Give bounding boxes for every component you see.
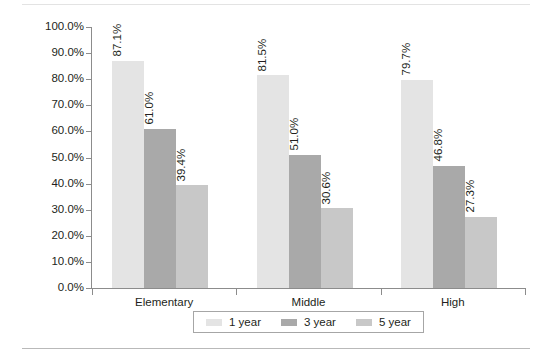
legend-swatch-icon: [356, 319, 372, 326]
bar-elementary-5-year: 39.4%: [176, 185, 208, 288]
plot-area: 87.1%61.0%39.4%81.5%51.0%30.6%79.7%46.8%…: [92, 27, 525, 288]
y-axis-tick-label: 40.0%: [51, 178, 84, 190]
bar-high-5-year: 27.3%: [465, 217, 497, 288]
y-axis-tick-label: 0.0%: [58, 282, 84, 294]
y-axis-tick-label: 10.0%: [51, 256, 84, 268]
bar-value-label: 51.0%: [288, 118, 300, 151]
x-axis-label-elementary: Elementary: [135, 296, 193, 308]
x-axis-line: [92, 288, 526, 289]
legend-swatch-icon: [206, 319, 222, 326]
x-axis-label-high: High: [441, 296, 465, 308]
top-divider-rule: [22, 4, 530, 5]
legend-item-5-year[interactable]: 5 year: [356, 316, 411, 328]
x-axis-tick: [525, 289, 526, 295]
legend-label: 3 year: [304, 316, 336, 328]
bar-high-1-year: 79.7%: [401, 80, 433, 288]
y-axis-tick-label: 20.0%: [51, 230, 84, 242]
x-axis-tick: [381, 289, 382, 295]
legend-item-1-year[interactable]: 1 year: [206, 316, 261, 328]
y-axis-tick-label: 50.0%: [51, 152, 84, 164]
y-axis-tick-label: 90.0%: [51, 47, 84, 59]
bar-elementary-3-year: 61.0%: [144, 129, 176, 288]
bar-value-label: 39.4%: [176, 149, 188, 182]
legend-label: 1 year: [229, 316, 261, 328]
bottom-divider-rule: [22, 348, 530, 349]
bar-value-label: 81.5%: [256, 39, 268, 72]
bar-value-label: 27.3%: [464, 180, 476, 213]
bar-middle-5-year: 30.6%: [321, 208, 353, 288]
x-axis-label-middle: Middle: [292, 296, 326, 308]
bar-high-3-year: 46.8%: [433, 166, 465, 288]
bar-elementary-1-year: 87.1%: [112, 61, 144, 288]
bar-value-label: 61.0%: [144, 92, 156, 125]
bar-middle-1-year: 81.5%: [257, 75, 289, 288]
bar-middle-3-year: 51.0%: [289, 155, 321, 288]
legend-label: 5 year: [379, 316, 411, 328]
x-axis-tick: [236, 289, 237, 295]
retention-bar-chart: Retention Percentage 100.0%90.0%80.0%70.…: [0, 0, 550, 363]
bar-value-label: 79.7%: [400, 43, 412, 76]
bar-value-label: 30.6%: [320, 172, 332, 205]
bar-value-label: 87.1%: [112, 24, 124, 57]
y-axis-tick-label: 30.0%: [51, 204, 84, 216]
y-axis-tick-label: 80.0%: [51, 73, 84, 85]
y-axis-tick-label: 100.0%: [45, 21, 84, 33]
chart-legend: 1 year3 year5 year: [193, 311, 424, 333]
bar-value-label: 46.8%: [432, 129, 444, 162]
y-axis-tick-label: 70.0%: [51, 100, 84, 112]
y-axis-tick-label: 60.0%: [51, 126, 84, 138]
legend-swatch-icon: [281, 319, 297, 326]
legend-item-3-year[interactable]: 3 year: [281, 316, 336, 328]
x-axis-tick: [92, 289, 93, 295]
